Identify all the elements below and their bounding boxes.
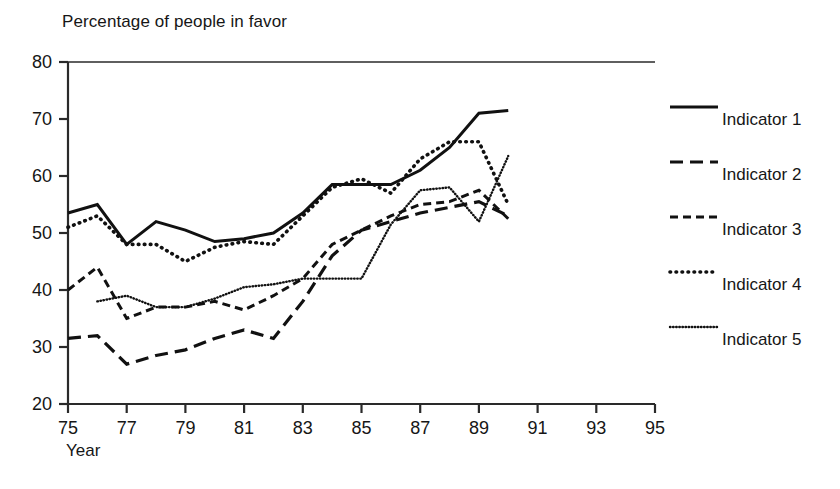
legend-item-1[interactable]: Indicator 1 — [668, 96, 838, 151]
x-tick-label: 79 — [175, 418, 195, 439]
legend-label-4: Indicator 4 — [722, 275, 801, 295]
y-tick-label: 30 — [0, 337, 52, 358]
legend-label-3: Indicator 3 — [722, 220, 801, 240]
legend-item-3[interactable]: Indicator 3 — [668, 206, 838, 261]
x-axis-title: Year — [66, 441, 100, 461]
x-tick-label: 77 — [117, 418, 137, 439]
legend-label-5: Indicator 5 — [722, 330, 801, 350]
x-tick-label: 75 — [58, 418, 78, 439]
x-tick-label: 81 — [234, 418, 254, 439]
x-tick-label: 89 — [469, 418, 489, 439]
y-tick-label: 80 — [0, 52, 52, 73]
x-tick-label: 95 — [645, 418, 665, 439]
y-tick-label: 20 — [0, 394, 52, 415]
chart-legend: Indicator 1Indicator 2Indicator 3Indicat… — [668, 96, 838, 371]
x-tick-label: 83 — [293, 418, 313, 439]
legend-label-2: Indicator 2 — [722, 165, 801, 185]
legend-item-5[interactable]: Indicator 5 — [668, 316, 838, 371]
axes — [59, 62, 655, 413]
series-line-5 — [97, 156, 508, 307]
x-tick-label: 91 — [528, 418, 548, 439]
y-tick-label: 70 — [0, 109, 52, 130]
chart-figure: Percentage of people in favor 2030405060… — [0, 0, 840, 489]
chart-title: Percentage of people in favor — [62, 12, 287, 32]
legend-label-1: Indicator 1 — [722, 110, 801, 130]
legend-item-4[interactable]: Indicator 4 — [668, 261, 838, 316]
x-tick-label: 87 — [410, 418, 430, 439]
legend-item-2[interactable]: Indicator 2 — [668, 151, 838, 206]
series-lines — [68, 110, 508, 364]
series-line-2 — [68, 202, 508, 364]
x-tick-label: 85 — [351, 418, 371, 439]
y-tick-label: 40 — [0, 280, 52, 301]
y-tick-label: 50 — [0, 223, 52, 244]
series-line-1 — [68, 110, 508, 244]
x-tick-label: 93 — [586, 418, 606, 439]
y-tick-label: 60 — [0, 166, 52, 187]
